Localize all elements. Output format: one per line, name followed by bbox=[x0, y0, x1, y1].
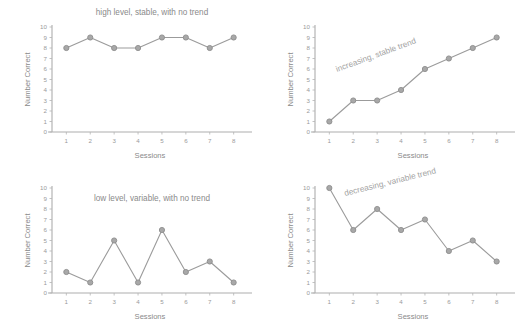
data-point-marker bbox=[231, 35, 236, 40]
x-tick-label: 8 bbox=[232, 298, 236, 305]
data-point-marker bbox=[446, 248, 451, 253]
x-tick-label: 6 bbox=[447, 298, 451, 305]
chart-annotation: decreasing, variable trend bbox=[343, 166, 437, 198]
x-tick-label: 2 bbox=[352, 137, 356, 144]
y-tick-label: 8 bbox=[44, 44, 48, 51]
data-point-marker bbox=[207, 259, 212, 264]
data-point-marker bbox=[159, 227, 164, 232]
data-point-marker bbox=[327, 185, 332, 190]
series-line bbox=[66, 230, 233, 283]
x-tick-label: 5 bbox=[160, 298, 164, 305]
y-tick-label: 1 bbox=[44, 118, 48, 125]
y-tick-label: 7 bbox=[44, 55, 48, 62]
x-tick-label: 1 bbox=[65, 298, 69, 305]
y-tick-label: 6 bbox=[307, 226, 311, 233]
y-tick-label: 5 bbox=[44, 76, 48, 83]
data-point-marker bbox=[375, 98, 380, 103]
y-tick-label: 6 bbox=[44, 226, 48, 233]
data-point-marker bbox=[135, 280, 140, 285]
data-point-marker bbox=[88, 280, 93, 285]
y-tick-label: 3 bbox=[44, 258, 48, 265]
x-tick-label: 8 bbox=[232, 137, 236, 144]
data-point-marker bbox=[64, 269, 69, 274]
x-tick-label: 7 bbox=[471, 137, 475, 144]
chart-top-left: 10987654321012345678SessionsNumber Corre… bbox=[0, 0, 265, 166]
y-axis-title: Number Correct bbox=[23, 52, 32, 107]
y-tick-label: 2 bbox=[44, 268, 48, 275]
y-tick-label: 10 bbox=[40, 184, 47, 191]
x-tick-label: 3 bbox=[112, 137, 116, 144]
x-tick-label: 4 bbox=[399, 137, 403, 144]
y-tick-label: 5 bbox=[307, 237, 311, 244]
data-point-marker bbox=[183, 269, 188, 274]
chart-title: high level, stable, with no trend bbox=[96, 8, 209, 17]
y-tick-label: 6 bbox=[307, 65, 311, 72]
x-axis-title: Sessions bbox=[135, 151, 166, 160]
chart-panel-bottom-left: 10987654321012345678SessionsNumber Corre… bbox=[0, 166, 265, 331]
data-point-marker bbox=[112, 45, 117, 50]
x-tick-label: 6 bbox=[447, 137, 451, 144]
x-tick-label: 4 bbox=[136, 137, 140, 144]
y-tick-label: 10 bbox=[303, 23, 310, 30]
x-tick-label: 5 bbox=[423, 137, 427, 144]
y-tick-label: 2 bbox=[307, 268, 311, 275]
y-axis-title: Number Correct bbox=[286, 213, 295, 268]
chart-panel-bottom-right: 10987654321012345678SessionsNumber Corre… bbox=[265, 166, 529, 331]
x-axis-title: Sessions bbox=[398, 151, 429, 160]
y-tick-label: 1 bbox=[307, 279, 311, 286]
data-point-marker bbox=[159, 35, 164, 40]
y-tick-label: 3 bbox=[44, 97, 48, 104]
data-point-marker bbox=[446, 56, 451, 61]
x-tick-label: 5 bbox=[423, 298, 427, 305]
x-tick-label: 4 bbox=[136, 298, 140, 305]
y-tick-label: 8 bbox=[307, 44, 311, 51]
x-tick-label: 2 bbox=[352, 298, 356, 305]
data-point-marker bbox=[494, 35, 499, 40]
chart-grid: 10987654321012345678SessionsNumber Corre… bbox=[0, 0, 529, 331]
y-tick-label: 0 bbox=[44, 128, 48, 135]
data-point-marker bbox=[398, 227, 403, 232]
y-tick-label: 10 bbox=[40, 23, 47, 30]
data-point-marker bbox=[351, 227, 356, 232]
y-axis-title: Number Correct bbox=[286, 52, 295, 107]
x-tick-label: 2 bbox=[89, 137, 93, 144]
x-axis-title: Sessions bbox=[398, 312, 429, 321]
data-point-marker bbox=[135, 45, 140, 50]
data-point-marker bbox=[207, 45, 212, 50]
y-axis-title: Number Correct bbox=[23, 213, 32, 268]
data-point-marker bbox=[88, 35, 93, 40]
data-point-marker bbox=[470, 238, 475, 243]
y-tick-label: 4 bbox=[44, 86, 48, 93]
data-point-marker bbox=[422, 217, 427, 222]
y-tick-label: 4 bbox=[307, 247, 311, 254]
x-tick-label: 8 bbox=[495, 137, 499, 144]
x-tick-label: 7 bbox=[208, 137, 212, 144]
y-tick-label: 9 bbox=[44, 34, 48, 41]
series-line bbox=[329, 188, 496, 262]
x-tick-label: 5 bbox=[160, 137, 164, 144]
data-point-marker bbox=[231, 280, 236, 285]
data-point-marker bbox=[351, 98, 356, 103]
y-tick-label: 4 bbox=[44, 247, 48, 254]
y-tick-label: 6 bbox=[44, 65, 48, 72]
data-point-marker bbox=[470, 45, 475, 50]
y-tick-label: 0 bbox=[307, 128, 311, 135]
data-point-marker bbox=[494, 259, 499, 264]
chart-bottom-left: 10987654321012345678SessionsNumber Corre… bbox=[0, 166, 265, 331]
y-tick-label: 7 bbox=[44, 216, 48, 223]
y-tick-label: 7 bbox=[307, 55, 311, 62]
x-axis-title: Sessions bbox=[135, 312, 166, 321]
x-tick-label: 1 bbox=[328, 298, 332, 305]
x-tick-label: 1 bbox=[328, 137, 332, 144]
x-tick-label: 8 bbox=[495, 298, 499, 305]
y-tick-label: 0 bbox=[44, 289, 48, 296]
x-tick-label: 7 bbox=[471, 298, 475, 305]
data-point-marker bbox=[64, 45, 69, 50]
y-tick-label: 1 bbox=[307, 118, 311, 125]
y-tick-label: 0 bbox=[307, 289, 311, 296]
x-tick-label: 3 bbox=[112, 298, 116, 305]
y-tick-label: 3 bbox=[307, 97, 311, 104]
y-tick-label: 8 bbox=[44, 205, 48, 212]
x-tick-label: 3 bbox=[375, 137, 379, 144]
y-tick-label: 3 bbox=[307, 258, 311, 265]
